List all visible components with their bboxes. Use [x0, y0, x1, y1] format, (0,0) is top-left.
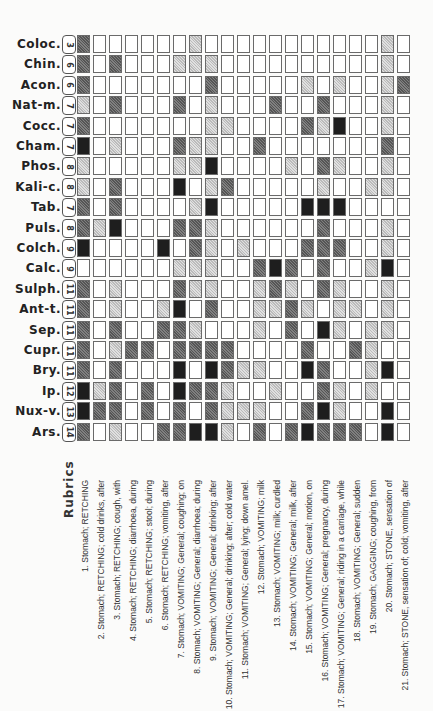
- grade-cell[interactable]: [205, 300, 218, 318]
- grade-cell[interactable]: [253, 117, 266, 135]
- grade-cell[interactable]: [333, 239, 346, 257]
- grade-cell[interactable]: [141, 178, 154, 196]
- grade-cell[interactable]: [285, 402, 298, 420]
- grade-cell[interactable]: [381, 178, 394, 196]
- grade-cell[interactable]: [381, 157, 394, 175]
- grade-cell[interactable]: [253, 55, 266, 73]
- remedy-row[interactable]: Ip.12: [0, 382, 433, 401]
- grade-cell[interactable]: [365, 137, 378, 155]
- grade-cell[interactable]: [317, 55, 330, 73]
- grade-cell[interactable]: [269, 96, 282, 114]
- grade-cell[interactable]: [237, 157, 250, 175]
- grade-cell[interactable]: [125, 35, 138, 53]
- grade-cell[interactable]: [189, 321, 202, 339]
- grade-cell[interactable]: [269, 280, 282, 298]
- grade-cell[interactable]: [189, 259, 202, 277]
- grade-cell[interactable]: [317, 35, 330, 53]
- grade-cell[interactable]: [93, 280, 106, 298]
- remedy-row[interactable]: Sulph.11: [0, 280, 433, 299]
- grade-cell[interactable]: [109, 219, 122, 237]
- grade-cell[interactable]: [173, 137, 186, 155]
- grade-cell[interactable]: [381, 219, 394, 237]
- grade-cell[interactable]: [157, 96, 170, 114]
- grade-cell[interactable]: [109, 137, 122, 155]
- grade-cell[interactable]: [125, 361, 138, 379]
- grade-cell[interactable]: [253, 137, 266, 155]
- grade-cell[interactable]: [301, 117, 314, 135]
- grade-cell[interactable]: [157, 361, 170, 379]
- grade-cell[interactable]: [253, 76, 266, 94]
- grade-cell[interactable]: [285, 259, 298, 277]
- grade-cell[interactable]: [125, 402, 138, 420]
- grade-cell[interactable]: [221, 321, 234, 339]
- grade-cell[interactable]: [317, 423, 330, 441]
- grade-cell[interactable]: [221, 300, 234, 318]
- grade-cell[interactable]: [317, 157, 330, 175]
- grade-cell[interactable]: [365, 382, 378, 400]
- grade-cell[interactable]: [205, 402, 218, 420]
- grade-cell[interactable]: [189, 300, 202, 318]
- grade-cell[interactable]: [141, 423, 154, 441]
- grade-cell[interactable]: [173, 219, 186, 237]
- grade-cell[interactable]: [349, 137, 362, 155]
- grade-cell[interactable]: [109, 402, 122, 420]
- grade-cell[interactable]: [173, 96, 186, 114]
- grade-cell[interactable]: [205, 219, 218, 237]
- grade-cell[interactable]: [285, 157, 298, 175]
- grade-cell[interactable]: [301, 219, 314, 237]
- grade-cell[interactable]: [205, 321, 218, 339]
- grade-cell[interactable]: [109, 76, 122, 94]
- grade-cell[interactable]: [317, 361, 330, 379]
- grade-cell[interactable]: [381, 96, 394, 114]
- grade-cell[interactable]: [93, 361, 106, 379]
- grade-cell[interactable]: [301, 361, 314, 379]
- grade-cell[interactable]: [317, 321, 330, 339]
- grade-cell[interactable]: [109, 178, 122, 196]
- remedy-name[interactable]: Ars.: [32, 424, 61, 440]
- grade-cell[interactable]: [269, 178, 282, 196]
- grade-cell[interactable]: [125, 96, 138, 114]
- grade-cell[interactable]: [285, 96, 298, 114]
- remedy-name[interactable]: Phos.: [21, 158, 61, 174]
- grade-cell[interactable]: [157, 321, 170, 339]
- grade-cell[interactable]: [381, 341, 394, 359]
- grade-cell[interactable]: [269, 321, 282, 339]
- grade-cell[interactable]: [221, 178, 234, 196]
- grade-cell[interactable]: [205, 361, 218, 379]
- grade-cell[interactable]: [173, 300, 186, 318]
- remedy-row[interactable]: Sep.11: [0, 321, 433, 340]
- grade-cell[interactable]: [205, 76, 218, 94]
- grade-cell[interactable]: [333, 423, 346, 441]
- grade-cell[interactable]: [93, 259, 106, 277]
- grade-cell[interactable]: [381, 259, 394, 277]
- grade-cell[interactable]: [93, 198, 106, 216]
- remedy-row[interactable]: Coloc.3: [0, 35, 433, 54]
- grade-cell[interactable]: [77, 117, 90, 135]
- grade-cell[interactable]: [125, 341, 138, 359]
- grade-cell[interactable]: [93, 157, 106, 175]
- grade-cell[interactable]: [221, 341, 234, 359]
- grade-cell[interactable]: [141, 239, 154, 257]
- grade-cell[interactable]: [269, 157, 282, 175]
- grade-cell[interactable]: [125, 55, 138, 73]
- grade-cell[interactable]: [173, 239, 186, 257]
- grade-cell[interactable]: [221, 219, 234, 237]
- grade-cell[interactable]: [285, 361, 298, 379]
- remedy-name[interactable]: Tab.: [31, 199, 61, 215]
- grade-cell[interactable]: [349, 96, 362, 114]
- grade-cell[interactable]: [253, 402, 266, 420]
- grade-cell[interactable]: [365, 361, 378, 379]
- grade-cell[interactable]: [397, 198, 410, 216]
- grade-cell[interactable]: [349, 157, 362, 175]
- remedy-name[interactable]: Puls.: [25, 220, 61, 236]
- grade-cell[interactable]: [157, 280, 170, 298]
- grade-cell[interactable]: [381, 117, 394, 135]
- grade-cell[interactable]: [253, 321, 266, 339]
- grade-cell[interactable]: [397, 96, 410, 114]
- grade-cell[interactable]: [237, 341, 250, 359]
- grade-cell[interactable]: [221, 382, 234, 400]
- grade-cell[interactable]: [109, 382, 122, 400]
- grade-cell[interactable]: [365, 341, 378, 359]
- grade-cell[interactable]: [77, 382, 90, 400]
- grade-cell[interactable]: [237, 423, 250, 441]
